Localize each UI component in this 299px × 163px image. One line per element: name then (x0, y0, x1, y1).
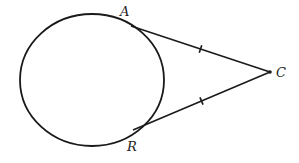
point-label-c: C (276, 65, 286, 80)
point-c-dot (268, 70, 272, 74)
point-label-a: A (119, 4, 129, 19)
tangent-segments-diagram: A R C (0, 0, 299, 163)
point-label-r: R (126, 139, 137, 154)
